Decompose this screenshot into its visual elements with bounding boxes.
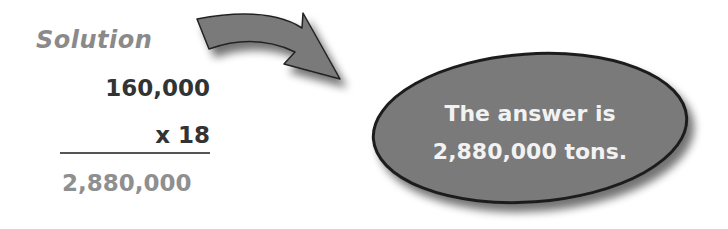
sum-rule-divider bbox=[60, 152, 210, 154]
answer-text: The answer is 2,880,000 tons. bbox=[380, 95, 680, 171]
multiplier: x 18 bbox=[155, 122, 210, 148]
answer-line-2: 2,880,000 tons. bbox=[380, 133, 680, 171]
curved-arrow-icon bbox=[197, 13, 340, 79]
answer-line-1: The answer is bbox=[380, 95, 680, 133]
product: 2,880,000 bbox=[62, 170, 192, 196]
multiplicand: 160,000 bbox=[105, 75, 210, 101]
solution-label: Solution bbox=[36, 26, 152, 54]
